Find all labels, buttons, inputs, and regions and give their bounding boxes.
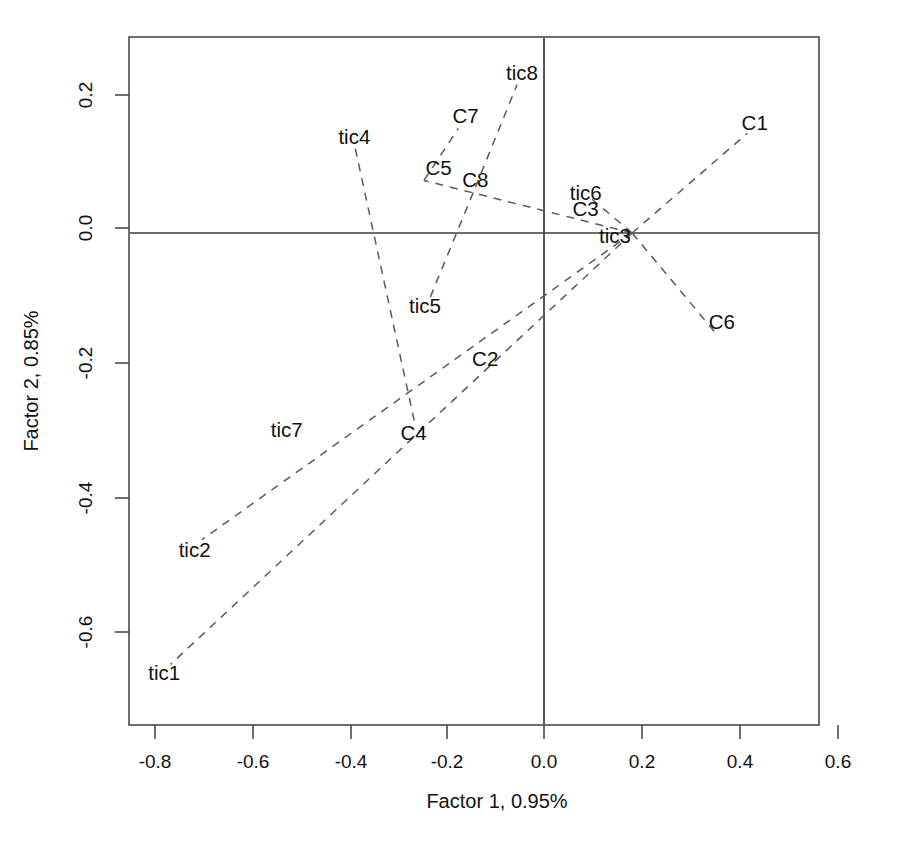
x-tick-label: -0.6 bbox=[237, 751, 270, 772]
point-label-tic8: tic8 bbox=[506, 61, 538, 84]
x-axis-title: Factor 1, 0.95% bbox=[426, 790, 567, 812]
vector-layer bbox=[171, 85, 748, 665]
vector-C7-tic4 bbox=[355, 149, 415, 427]
x-tick-label: -0.2 bbox=[431, 751, 464, 772]
y-tick-label: 0.2 bbox=[75, 82, 96, 108]
y-tick-label: -0.4 bbox=[75, 481, 96, 514]
point-label-C8: C8 bbox=[462, 168, 488, 191]
vector-C6 bbox=[632, 233, 716, 334]
x-axis-tick-labels: -0.8 -0.6 -0.4 -0.2 0.0 0.2 0.4 0.6 bbox=[139, 751, 852, 772]
y-axis-ticks bbox=[115, 95, 129, 632]
x-axis-ticks bbox=[155, 725, 838, 739]
x-tick-label: 0.2 bbox=[629, 751, 655, 772]
point-label-C4: C4 bbox=[401, 421, 427, 444]
point-label-tic2: tic2 bbox=[179, 538, 211, 561]
x-tick-label: -0.4 bbox=[335, 751, 368, 772]
point-label-tic5: tic5 bbox=[409, 294, 441, 317]
point-label-layer: C1C2C3C4C5C6C7C8tic1tic2tic3tic4tic5tic6… bbox=[148, 61, 768, 685]
y-axis-title: Factor 2, 0.85% bbox=[20, 310, 42, 451]
vector-C2-tic2 bbox=[202, 233, 632, 540]
x-tick-label: 0.4 bbox=[727, 751, 754, 772]
x-tick-label: -0.8 bbox=[139, 751, 172, 772]
y-axis-tick-labels: -0.6 -0.4 -0.2 0.0 0.2 bbox=[75, 82, 96, 649]
x-tick-label: 0.0 bbox=[531, 751, 557, 772]
vector-tic5-C8 bbox=[430, 187, 475, 297]
y-tick-label: -0.6 bbox=[75, 616, 96, 649]
point-label-C6: C6 bbox=[709, 310, 735, 333]
point-label-tic1: tic1 bbox=[148, 661, 180, 684]
point-label-tic7: tic7 bbox=[271, 418, 303, 441]
y-tick-label: -0.2 bbox=[75, 347, 96, 380]
point-label-C7: C7 bbox=[452, 104, 478, 127]
point-label-C2: C2 bbox=[472, 347, 498, 370]
chart-figure: -0.8 -0.6 -0.4 -0.2 0.0 0.2 0.4 0.6 -0.6… bbox=[0, 0, 903, 847]
y-tick-label: 0.0 bbox=[75, 215, 96, 241]
point-label-tic3: tic3 bbox=[599, 224, 631, 247]
biplot-canvas: -0.8 -0.6 -0.4 -0.2 0.0 0.2 0.4 0.6 -0.6… bbox=[0, 0, 903, 847]
point-label-tic6: tic6 bbox=[570, 181, 602, 204]
x-tick-label: 0.6 bbox=[825, 751, 851, 772]
point-label-tic4: tic4 bbox=[338, 125, 370, 148]
point-label-C1: C1 bbox=[742, 111, 768, 134]
vector-C4-tic1 bbox=[171, 233, 633, 664]
point-label-C5: C5 bbox=[426, 156, 452, 179]
vector-C1 bbox=[632, 133, 747, 233]
